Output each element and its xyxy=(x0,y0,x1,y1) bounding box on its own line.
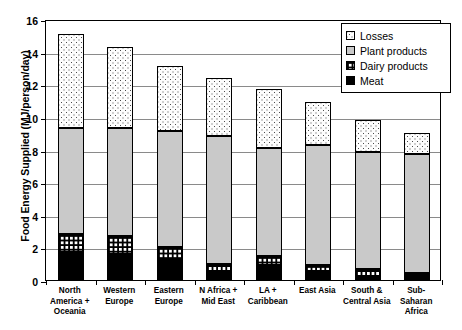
bar-stack xyxy=(206,19,232,280)
chart-legend: LossesPlant productsDairy productsMeat xyxy=(341,23,451,93)
bar-segment-losses[interactable] xyxy=(404,133,430,154)
x-label-line: Europe xyxy=(95,297,145,308)
bar-segment-meat[interactable] xyxy=(355,276,381,280)
legend-label: Dairy products xyxy=(360,60,428,72)
x-label-line: Oceania xyxy=(45,307,95,318)
y-tick-label: 10 xyxy=(26,118,38,119)
x-tick-mark xyxy=(343,280,344,285)
bar-group[interactable] xyxy=(305,19,331,280)
x-axis-label: NorthAmerica +Oceania xyxy=(45,286,95,318)
legend-item[interactable]: Meat xyxy=(346,73,445,88)
bar-segment-meat[interactable] xyxy=(157,260,183,280)
bar-segment-dairy[interactable] xyxy=(206,264,232,271)
x-label-line: N Africa + xyxy=(194,286,244,297)
dotted-pattern-swatch xyxy=(346,31,355,40)
legend-label: Losses xyxy=(360,30,393,42)
legend-item[interactable]: Dairy products xyxy=(346,58,445,73)
bar-stack xyxy=(256,19,282,280)
y-tick-label: 16 xyxy=(26,21,38,22)
bar-segment-dairy[interactable] xyxy=(256,256,282,264)
bar-segment-dairy[interactable] xyxy=(58,234,84,253)
x-label-line: America + xyxy=(45,297,95,308)
y-tick-label: 14 xyxy=(26,53,38,54)
y-tick-label: 2 xyxy=(32,249,38,250)
bar-segment-losses[interactable] xyxy=(58,34,84,129)
bar-segment-plant[interactable] xyxy=(58,128,84,233)
x-label-line: Africa xyxy=(392,307,442,318)
x-label-line: Western xyxy=(95,286,145,297)
bar-stack xyxy=(305,19,331,280)
bar-segment-meat[interactable] xyxy=(256,265,282,280)
bar-segment-dairy[interactable] xyxy=(404,273,430,275)
bar-segment-plant[interactable] xyxy=(157,131,183,248)
bar-segment-plant[interactable] xyxy=(355,152,381,269)
legend-item[interactable]: Losses xyxy=(346,28,445,43)
bar-group[interactable] xyxy=(107,19,133,280)
checkered-pattern-swatch xyxy=(346,61,355,70)
y-tick-label: 6 xyxy=(32,184,38,185)
bar-segment-plant[interactable] xyxy=(107,128,133,236)
bar-stack xyxy=(58,19,84,280)
bar-segment-meat[interactable] xyxy=(206,271,232,280)
bar-segment-meat[interactable] xyxy=(404,275,430,280)
y-tick-label: 0 xyxy=(32,282,38,283)
x-label-line: Mid East xyxy=(194,297,244,308)
y-tick-label: 12 xyxy=(26,86,38,87)
stacked-bar-chart: Food Energy Supplied (MJ/person/day) 024… xyxy=(0,0,462,330)
bar-group[interactable] xyxy=(157,19,183,280)
x-axis-label: Sub-SaharanAfrica xyxy=(392,286,442,318)
x-axis-label: South &Central Asia xyxy=(342,286,392,307)
black-fill-swatch xyxy=(346,76,355,85)
bar-segment-losses[interactable] xyxy=(305,102,331,145)
bar-group[interactable] xyxy=(58,19,84,280)
bar-segment-dairy[interactable] xyxy=(355,269,381,276)
y-tick-label: 8 xyxy=(32,151,38,152)
bar-segment-losses[interactable] xyxy=(107,47,133,129)
legend-label: Meat xyxy=(360,75,383,87)
bar-segment-losses[interactable] xyxy=(355,120,381,152)
bar-segment-meat[interactable] xyxy=(305,271,331,280)
x-axis-label: LA +Caribbean xyxy=(243,286,293,307)
x-tick-mark xyxy=(393,280,394,285)
legend-label: Plant products xyxy=(360,45,427,57)
x-label-line: Saharan xyxy=(392,297,442,308)
bar-segment-plant[interactable] xyxy=(305,145,331,265)
bar-segment-plant[interactable] xyxy=(206,136,232,264)
bar-segment-dairy[interactable] xyxy=(305,265,331,271)
x-tick-mark xyxy=(46,280,47,285)
x-tick-mark xyxy=(294,280,295,285)
x-label-line: LA + xyxy=(243,286,293,297)
x-tick-mark xyxy=(442,280,443,285)
bar-segment-meat[interactable] xyxy=(107,254,133,280)
x-axis-label: EasternEurope xyxy=(144,286,194,307)
bar-segment-dairy[interactable] xyxy=(157,247,183,260)
bar-segment-losses[interactable] xyxy=(157,66,183,130)
x-tick-mark xyxy=(96,280,97,285)
bar-segment-plant[interactable] xyxy=(404,154,430,272)
y-tick-label: 4 xyxy=(32,216,38,217)
x-label-line: Central Asia xyxy=(342,297,392,308)
bar-segment-dairy[interactable] xyxy=(107,236,133,254)
bar-group[interactable] xyxy=(206,19,232,280)
x-label-line: Eastern xyxy=(144,286,194,297)
bar-segment-meat[interactable] xyxy=(58,252,84,280)
bar-stack xyxy=(107,19,133,280)
legend-item[interactable]: Plant products xyxy=(346,43,445,58)
bar-stack xyxy=(157,19,183,280)
x-axis-label: WesternEurope xyxy=(95,286,145,307)
x-label-line: Europe xyxy=(144,297,194,308)
x-label-line: North xyxy=(45,286,95,297)
x-tick-mark xyxy=(244,280,245,285)
x-label-line: South & xyxy=(342,286,392,297)
x-label-line: Caribbean xyxy=(243,297,293,308)
bar-group[interactable] xyxy=(256,19,282,280)
bar-segment-plant[interactable] xyxy=(256,148,282,256)
bar-segment-losses[interactable] xyxy=(256,89,282,148)
x-tick-mark xyxy=(195,280,196,285)
x-axis-label: East Asia xyxy=(293,286,343,297)
x-label-line: Sub- xyxy=(392,286,442,297)
x-axis-labels: NorthAmerica +OceaniaWesternEuropeEaster… xyxy=(45,286,441,330)
gray-fill-swatch xyxy=(346,46,355,55)
x-axis-label: N Africa +Mid East xyxy=(194,286,244,307)
bar-segment-losses[interactable] xyxy=(206,78,232,136)
